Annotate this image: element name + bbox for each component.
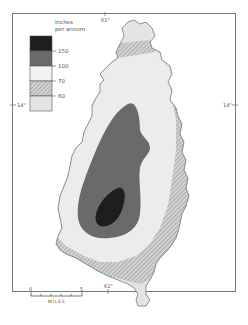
latitude-label-right: 14° xyxy=(223,102,232,108)
latitude-label-left: 14° xyxy=(17,102,26,108)
legend-swatch-under-60 xyxy=(30,96,52,111)
legend-swatch-over-150 xyxy=(30,36,52,51)
rainfall-map: 61° 61° 14° 14° Inches per annum 150 100… xyxy=(0,0,248,325)
longitude-label-bottom: 61° xyxy=(104,283,113,289)
legend-swatch-60-70 xyxy=(30,81,52,96)
scale-unit-label: MILES xyxy=(48,299,65,304)
legend-title-line1: Inches xyxy=(55,19,73,25)
scale-end-label: 5 xyxy=(80,286,83,292)
legend-swatch-70-100 xyxy=(30,66,52,81)
legend-label-100: 100 xyxy=(58,63,69,69)
legend-title-line2: per annum xyxy=(55,26,85,33)
legend-label-150: 150 xyxy=(58,48,69,54)
legend-swatch-100-150 xyxy=(30,51,52,66)
longitude-label-top: 61° xyxy=(101,17,110,23)
legend-label-70: 70 xyxy=(58,78,65,84)
scale-start-label: 0 xyxy=(29,286,32,292)
legend-label-60: 60 xyxy=(58,93,65,99)
